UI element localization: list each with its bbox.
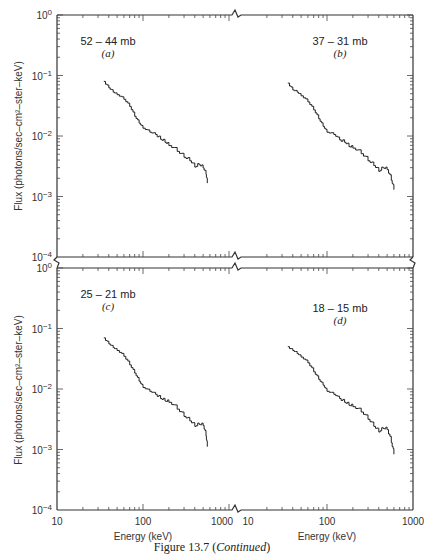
y-tick-label: 10−3 [32, 190, 53, 203]
panel-letter-b: (b) [334, 47, 347, 60]
panel-letter-c: (c) [102, 300, 115, 313]
x-tick-label: 1000 [211, 516, 234, 527]
top-axis-line [57, 10, 413, 17]
x-tick-label: 10 [51, 516, 63, 527]
y-tick-label: 100 [36, 8, 52, 21]
panel-title-a: 52 – 44 mb [80, 35, 135, 47]
figure-canvas: 10010−110−210−310−410010−110−210−310−410… [0, 0, 424, 556]
figure-caption: Figure 13.7 (Continued) [0, 540, 424, 555]
spectrum-curve-d [288, 347, 394, 455]
axis-titles: Energy (keV)Energy (keV)Flux (photons/se… [13, 61, 356, 542]
panel-title-b: 37 – 31 mb [312, 35, 367, 47]
y-tick-label: 10−1 [32, 322, 53, 335]
panel-title-d: 18 – 15 mb [312, 302, 367, 314]
y-tick-label: 10−2 [32, 382, 53, 395]
bottom-axis-line [57, 252, 413, 259]
y-axis-title: Flux (photons/sec–cm²–ster–keV) [13, 61, 24, 211]
y-tick-label: 10−2 [32, 129, 53, 142]
spectrum-curve-c [104, 338, 208, 447]
y-tick-label: 10−3 [32, 443, 53, 456]
y-tick-label: 10−1 [32, 69, 53, 82]
panel-title-c: 25 – 21 mb [80, 288, 135, 300]
y-tick-label: 10−4 [32, 503, 53, 516]
x-tick-label: 10 [242, 516, 254, 527]
y-tick-label: 100 [36, 261, 52, 274]
x-tick-label: 1000 [402, 516, 424, 527]
y-axis-title: Flux (photons/sec–cm²–ster–keV) [13, 315, 24, 465]
left-axis-break [54, 257, 59, 268]
panel-letter-a: (a) [102, 47, 115, 60]
x-tick-label: 100 [319, 516, 336, 527]
x-tick-label: 100 [135, 516, 152, 527]
spectrum-curve-b [288, 83, 394, 190]
spectrum-curve-a [104, 81, 208, 183]
top-axis-line [57, 263, 413, 270]
panel-titles: 52 – 44 mb(a)37 – 31 mb(b)25 – 21 mb(c)1… [80, 35, 367, 327]
right-axis-break [410, 257, 415, 268]
bottom-axis-line [57, 505, 413, 512]
panel-letter-d: (d) [334, 314, 347, 327]
